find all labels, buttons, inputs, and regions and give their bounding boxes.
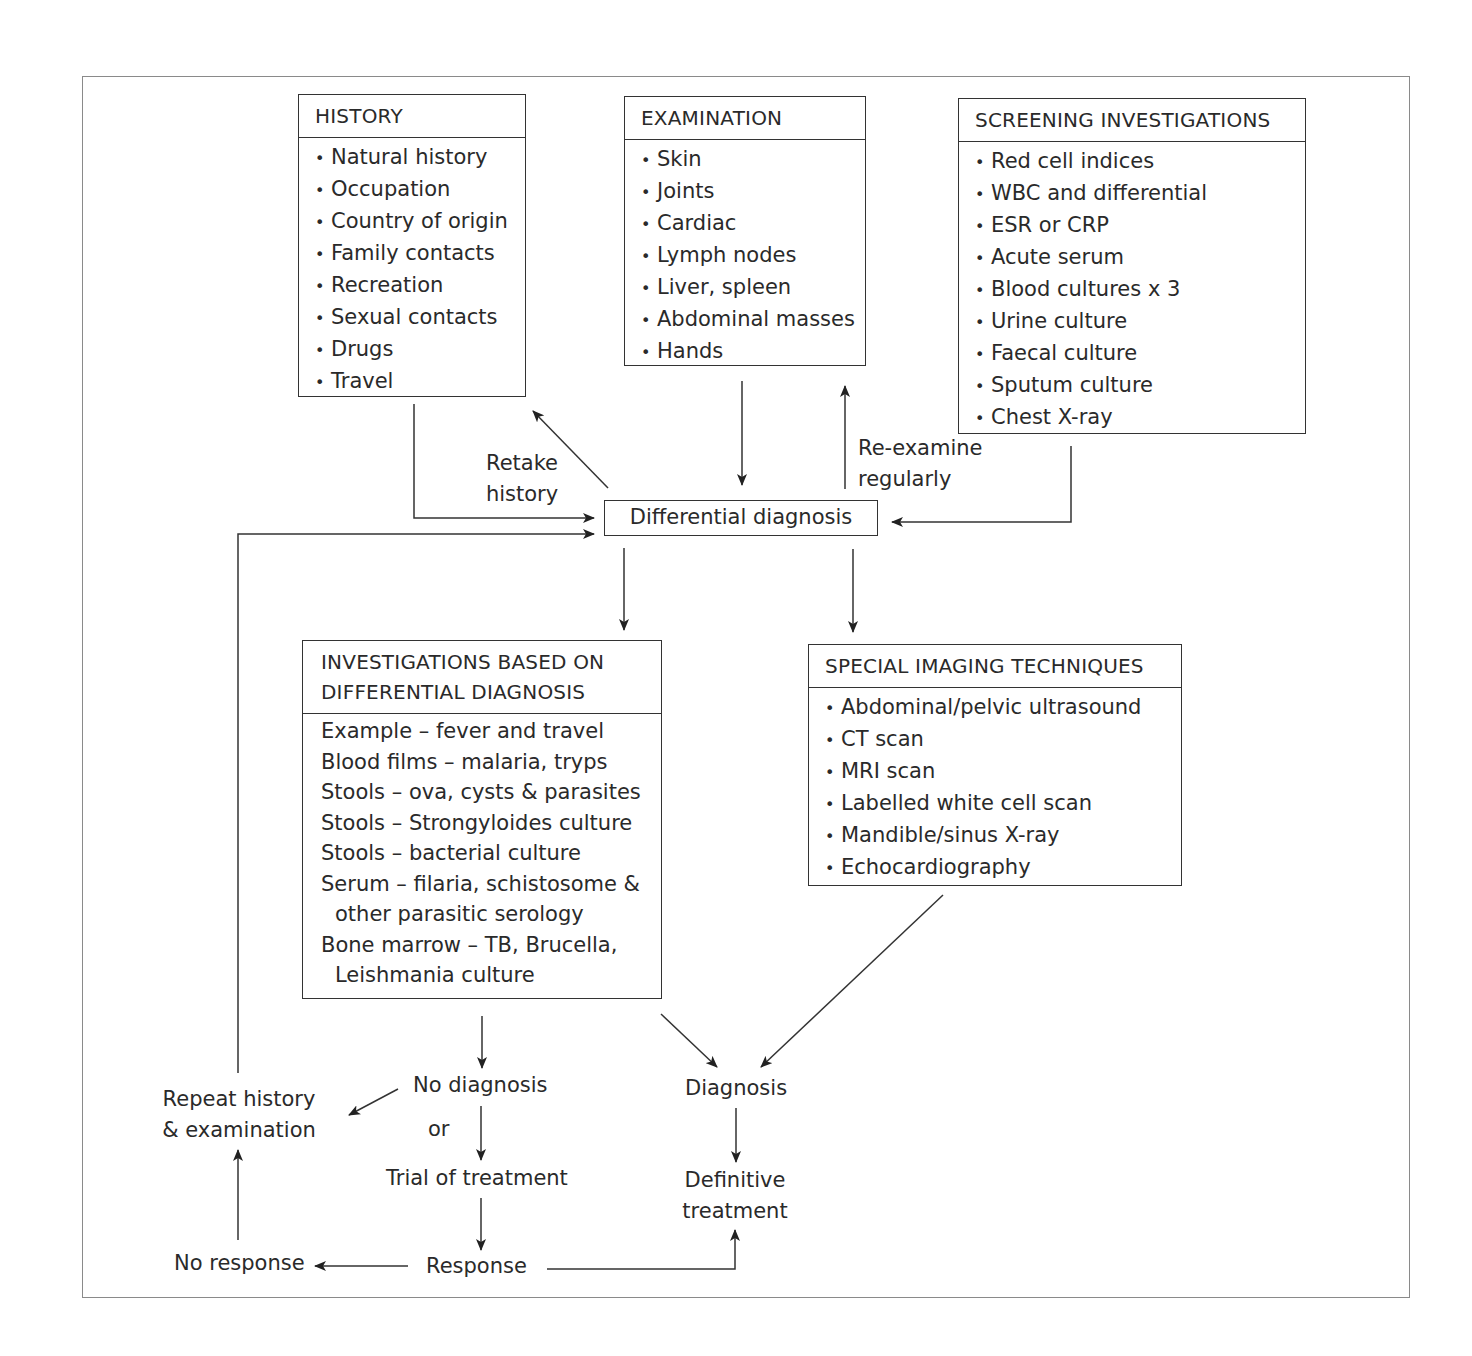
list-item: •Sputum culture	[975, 370, 1295, 402]
investigations-title-line1: INVESTIGATIONS BASED ON	[321, 647, 647, 677]
imaging-box: SPECIAL IMAGING TECHNIQUES •Abdominal/pe…	[808, 644, 1182, 886]
examination-box: EXAMINATION •Skin •Joints •Cardiac •Lymp…	[624, 96, 866, 366]
examination-title: EXAMINATION	[625, 97, 865, 140]
list-item: •Abdominal masses	[641, 304, 855, 336]
list-item: •Liver, spleen	[641, 272, 855, 304]
list-item: •Hands	[641, 336, 855, 368]
differential-diagnosis-label: Differential diagnosis	[630, 505, 852, 529]
investigation-line: other parasitic serology	[321, 899, 651, 930]
list-item: •Drugs	[315, 334, 515, 366]
investigation-line: Serum – filaria, schistosome &	[321, 869, 651, 900]
investigation-line: Example – fever and travel	[321, 716, 651, 747]
list-item: •Faecal culture	[975, 338, 1295, 370]
bullet-icon: •	[975, 211, 991, 242]
bullet-icon: •	[315, 143, 331, 174]
list-item: •Recreation	[315, 270, 515, 302]
or-label: or	[428, 1114, 449, 1145]
investigations-box: INVESTIGATIONS BASED ON DIFFERENTIAL DIA…	[302, 640, 662, 999]
bullet-icon: •	[641, 241, 657, 272]
bullet-icon: •	[641, 337, 657, 368]
list-item: •Skin	[641, 144, 855, 176]
list-item: •Cardiac	[641, 208, 855, 240]
no-diagnosis-label: No diagnosis	[413, 1070, 547, 1101]
bullet-icon: •	[641, 273, 657, 304]
list-item: •ESR or CRP	[975, 210, 1295, 242]
diagnosis-label: Diagnosis	[685, 1073, 787, 1104]
list-item: •Red cell indices	[975, 146, 1295, 178]
bullet-icon: •	[315, 335, 331, 366]
bullet-icon: •	[315, 303, 331, 334]
bullet-icon: •	[641, 209, 657, 240]
reexamine-label: Re-examine regularly	[858, 433, 983, 495]
investigation-line: Blood films – malaria, tryps	[321, 747, 651, 778]
bullet-icon: •	[825, 789, 841, 820]
list-item: •Echocardiography	[825, 852, 1171, 884]
list-item: •Joints	[641, 176, 855, 208]
screening-title: SCREENING INVESTIGATIONS	[959, 99, 1305, 142]
history-title: HISTORY	[299, 95, 525, 138]
bullet-icon: •	[641, 177, 657, 208]
imaging-title: SPECIAL IMAGING TECHNIQUES	[809, 645, 1181, 688]
list-item: •CT scan	[825, 724, 1171, 756]
history-box: HISTORY •Natural history •Occupation •Co…	[298, 94, 526, 397]
bullet-icon: •	[315, 175, 331, 206]
list-item: •Blood cultures x 3	[975, 274, 1295, 306]
bullet-icon: •	[975, 307, 991, 338]
investigations-title-line2: DIFFERENTIAL DIAGNOSIS	[321, 677, 647, 707]
bullet-icon: •	[825, 853, 841, 884]
investigation-line: Bone marrow – TB, Brucella,	[321, 930, 651, 961]
list-item: •WBC and differential	[975, 178, 1295, 210]
screening-box: SCREENING INVESTIGATIONS •Red cell indic…	[958, 98, 1306, 434]
list-item: •Abdominal/pelvic ultrasound	[825, 692, 1171, 724]
bullet-icon: •	[315, 271, 331, 302]
bullet-icon: •	[975, 243, 991, 274]
repeat-history-label: Repeat history & examination	[150, 1084, 328, 1146]
investigation-line: Stools – bacterial culture	[321, 838, 651, 869]
bullet-icon: •	[641, 305, 657, 336]
list-item: •Country of origin	[315, 206, 515, 238]
bullet-icon: •	[825, 725, 841, 756]
bullet-icon: •	[975, 179, 991, 210]
bullet-icon: •	[315, 367, 331, 398]
bullet-icon: •	[975, 339, 991, 370]
list-item: •Labelled white cell scan	[825, 788, 1171, 820]
list-item: •Mandible/sinus X-ray	[825, 820, 1171, 852]
no-response-label: No response	[174, 1248, 305, 1279]
investigation-line: Leishmania culture	[321, 960, 651, 991]
bullet-icon: •	[641, 145, 657, 176]
list-item: •MRI scan	[825, 756, 1171, 788]
list-item: •Sexual contacts	[315, 302, 515, 334]
bullet-icon: •	[975, 147, 991, 178]
list-item: •Occupation	[315, 174, 515, 206]
response-label: Response	[426, 1251, 527, 1282]
bullet-icon: •	[315, 207, 331, 238]
list-item: •Family contacts	[315, 238, 515, 270]
differential-diagnosis-box: Differential diagnosis	[604, 500, 878, 536]
bullet-icon: •	[975, 403, 991, 434]
list-item: •Natural history	[315, 142, 515, 174]
bullet-icon: •	[975, 371, 991, 402]
retake-history-label: Retake history	[474, 448, 570, 510]
bullet-icon: •	[825, 693, 841, 724]
bullet-icon: •	[825, 821, 841, 852]
bullet-icon: •	[975, 275, 991, 306]
list-item: •Chest X-ray	[975, 402, 1295, 434]
investigation-line: Stools – Strongyloides culture	[321, 808, 651, 839]
bullet-icon: •	[315, 239, 331, 270]
trial-of-treatment-label: Trial of treatment	[386, 1163, 568, 1194]
list-item: •Travel	[315, 366, 515, 398]
list-item: •Urine culture	[975, 306, 1295, 338]
list-item: •Acute serum	[975, 242, 1295, 274]
investigation-line: Stools – ova, cysts & parasites	[321, 777, 651, 808]
list-item: •Lymph nodes	[641, 240, 855, 272]
definitive-treatment-label: Definitive treatment	[670, 1165, 800, 1227]
bullet-icon: •	[825, 757, 841, 788]
